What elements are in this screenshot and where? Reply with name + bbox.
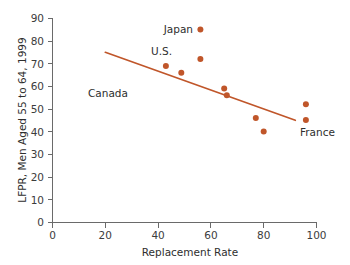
y-tick-label-20: 20 <box>31 171 44 183</box>
annotation-us: U.S. <box>151 45 172 57</box>
x-axis-ticks <box>53 223 317 228</box>
y-tick-label-50: 50 <box>31 103 44 115</box>
data-point <box>178 70 184 76</box>
annotation-japan: Japan <box>163 23 193 35</box>
plot-area: 0 10 20 30 40 50 60 70 80 90 0 20 40 60 … <box>0 0 350 265</box>
x-tick-label-100: 100 <box>306 229 326 241</box>
axes <box>53 18 317 223</box>
y-tick-label-70: 70 <box>31 58 44 70</box>
y-tick-label-30: 30 <box>31 148 44 160</box>
annotation-france: France <box>300 126 335 138</box>
data-point <box>197 27 203 33</box>
x-tick-label-0: 0 <box>49 229 56 241</box>
annotation-canada: Canada <box>88 87 128 99</box>
y-axis-title: LFPR, Men Aged 55 to 64, 1999 <box>16 37 28 202</box>
data-point <box>163 63 169 69</box>
x-tick-label-20: 20 <box>99 229 112 241</box>
y-tick-label-80: 80 <box>31 35 44 47</box>
y-tick-label-10: 10 <box>31 194 44 206</box>
y-tick-label-40: 40 <box>31 126 44 138</box>
scatter-chart: 0 10 20 30 40 50 60 70 80 90 0 20 40 60 … <box>0 0 350 265</box>
x-axis-title: Replacement Rate <box>142 246 238 258</box>
y-tick-label-90: 90 <box>31 12 44 24</box>
data-point <box>197 56 203 62</box>
y-axis-tick-labels: 0 10 20 30 40 50 60 70 80 90 <box>31 12 44 228</box>
x-tick-label-60: 60 <box>204 229 217 241</box>
y-tick-label-0: 0 <box>37 216 44 228</box>
point-annotations: Japan U.S. Canada France <box>88 23 335 138</box>
x-tick-label-40: 40 <box>151 229 164 241</box>
data-point <box>261 129 267 135</box>
data-point <box>253 115 259 121</box>
data-point <box>224 92 230 98</box>
trend-line <box>105 52 295 120</box>
y-tick-label-60: 60 <box>31 80 44 92</box>
data-point <box>303 117 309 123</box>
data-point <box>221 86 227 92</box>
x-tick-label-80: 80 <box>257 229 270 241</box>
x-axis-tick-labels: 0 20 40 60 80 100 <box>49 229 326 241</box>
y-axis-ticks <box>48 19 53 223</box>
data-point <box>303 101 309 107</box>
